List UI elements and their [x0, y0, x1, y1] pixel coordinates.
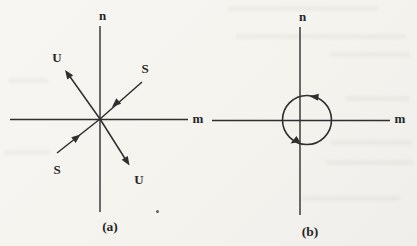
stable-branch-upper-right — [100, 82, 142, 119]
panel-b-caption: (b) — [302, 224, 319, 239]
upper-left-branch-label: U — [52, 50, 62, 65]
panel-b: n m (b) — [212, 9, 406, 239]
orbit-arrowhead-top — [309, 93, 319, 101]
arrowhead-outward-lower-right — [122, 156, 133, 167]
arrowhead-inward-upper-right — [110, 98, 122, 109]
panel-a-horizontal-axis-label: m — [193, 111, 204, 126]
panel-a-caption: (a) — [102, 219, 118, 234]
lower-right-branch-label: U — [134, 172, 144, 187]
panel-b-horizontal-axis-label: m — [395, 111, 406, 126]
panel-a-vertical-axis-label: n — [99, 8, 107, 23]
unstable-branch-upper-left — [67, 73, 100, 120]
lower-left-branch-label: S — [53, 162, 60, 177]
upper-right-branch-label: S — [141, 61, 148, 76]
panel-a: n m U S S U (a) — [10, 8, 204, 234]
panel-b-vertical-axis-label: n — [299, 9, 307, 24]
phase-portrait-figure: n m U S S U (a) n m (b) — [0, 0, 417, 246]
unstable-branch-lower-right — [100, 119, 128, 163]
scanned-book-figure: n m U S S U (a) n m (b) — [0, 0, 417, 246]
